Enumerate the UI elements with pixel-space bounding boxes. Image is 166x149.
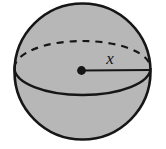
radius-label: x [105,49,114,68]
center-dot-icon [77,66,86,75]
radius-line [82,70,151,71]
sphere-figure-svg: x [0,0,166,149]
sphere-diagram: x [0,0,166,149]
